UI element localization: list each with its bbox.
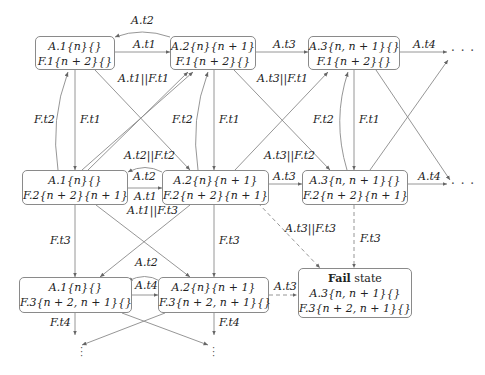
label-c2-ft1: F.t1 xyxy=(219,113,240,126)
label-top-a4: A.t4 xyxy=(413,38,436,51)
edge-diag-bot2 xyxy=(82,313,165,345)
label-cross-11: A.t1||F.t1 xyxy=(118,72,169,85)
state-line: F.3{n + 2, n + 1}{} xyxy=(299,301,411,316)
label-fail-diag: A.t3||F.t3 xyxy=(285,222,336,235)
state-a1-f2: A.1{n}{} F.2{n + 2}{n + 1} xyxy=(22,170,128,205)
label-c1-ft1: F.t1 xyxy=(80,113,101,126)
state-line: A.2{n}{n + 1} xyxy=(159,280,268,295)
state-line: F.2{n + 2}{n + 1} xyxy=(163,188,268,203)
edge-col3-ft2 xyxy=(340,72,348,170)
label-mid-a1: A.t1 xyxy=(134,190,157,203)
label-bot-ft4-right: F.t4 xyxy=(219,316,240,329)
state-line: F.3{n + 2, n + 1}{} xyxy=(159,295,268,310)
state-line: F.2{n + 2}{n + 1} xyxy=(23,188,127,203)
state-a1-f3: A.1{n}{} F.3{n + 2, n + 1}{} xyxy=(19,277,132,313)
state-line: A.3{n, n + 1}{} xyxy=(299,286,411,301)
label-bot-ft4-left: F.t4 xyxy=(50,316,71,329)
label-c3-ft1: F.t1 xyxy=(359,113,380,126)
label-mid-a4: A.t4 xyxy=(418,170,441,183)
state-line: A.3{n, n + 1}{} xyxy=(303,173,407,188)
state-line: A.1{n}{} xyxy=(36,39,114,54)
label-top-a3: A.t3 xyxy=(273,38,296,51)
label-mid-cross-32: A.t3||F.t2 xyxy=(264,149,315,162)
continuation-top: · · · xyxy=(451,44,475,58)
state-line: A.1{n}{} xyxy=(23,173,127,188)
state-line: F.2{n + 2}{n + 1} xyxy=(303,188,407,203)
state-line: F.1{n + 2}{} xyxy=(36,54,114,69)
state-line: F.1{n + 2}{} xyxy=(171,54,255,69)
continuation-bot-left: ··· xyxy=(80,346,84,358)
label-fail-vert: F.t3 xyxy=(360,232,381,245)
edge-diag-42 xyxy=(370,60,448,170)
state-a3-f2: A.3{n, n + 1}{} F.2{n + 2}{n + 1} xyxy=(302,170,408,205)
label-bot-back: A.t2 xyxy=(135,256,158,269)
continuation-mid: · · · xyxy=(451,177,475,191)
edge-col2-ft2 xyxy=(196,72,208,170)
label-mid-cross-22: A.t2||F.t2 xyxy=(124,149,175,162)
label-top-back: A.t2 xyxy=(131,14,154,27)
label-c2-ft2: F.t2 xyxy=(172,113,193,126)
label-c1-ft2: F.t2 xyxy=(34,113,55,126)
label-cross-31: A.t3||F.t1 xyxy=(257,72,308,85)
label-c3-ft2: F.t2 xyxy=(313,113,334,126)
edge-a-t2-top xyxy=(115,32,170,37)
label-bot-a3: A.t3 xyxy=(274,280,297,293)
edge-at3-ft3-fail xyxy=(258,203,320,268)
label-top-a1: A.t1 xyxy=(133,38,156,51)
state-a2-f2: A.2{n}{n + 1} F.2{n + 2}{n + 1} xyxy=(162,170,269,205)
state-a3-f1: A.3{n, n + 1}{} F.1{n + 2}{} xyxy=(308,36,400,70)
edge-diag-bot1 xyxy=(122,313,208,345)
state-line: F.1{n + 2}{} xyxy=(309,54,399,69)
continuation-bot-right: ··· xyxy=(212,346,216,358)
fail-state-title: Fail state xyxy=(299,271,411,286)
state-line: A.1{n}{} xyxy=(20,280,131,295)
label-mid-a3: A.t3 xyxy=(273,170,296,183)
state-line: A.2{n}{n + 1} xyxy=(163,173,268,188)
state-line: F.3{n + 2, n + 1}{} xyxy=(20,295,131,310)
label-c2-ft3: F.t3 xyxy=(219,234,240,247)
label-bot-a4: A.t4 xyxy=(135,279,158,292)
label-mid-cross-13: A.t1||F.t3 xyxy=(127,204,178,217)
state-a1-f1: A.1{n}{} F.1{n + 2}{} xyxy=(35,36,115,70)
label-mid-back: A.t2 xyxy=(133,170,156,183)
edge-diag-41 xyxy=(376,70,450,180)
label-c1-ft3: F.t3 xyxy=(50,234,71,247)
fail-state: Fail state A.3{n, n + 1}{} F.3{n + 2, n … xyxy=(298,268,412,318)
state-a2-f3: A.2{n}{n + 1} F.3{n + 2, n + 1}{} xyxy=(158,277,269,313)
state-line: A.2{n}{n + 1} xyxy=(171,39,255,54)
edge-col1-ft2 xyxy=(56,72,68,170)
state-a2-f1: A.2{n}{n + 1} F.1{n + 2}{} xyxy=(170,36,256,70)
state-line: A.3{n, n + 1}{} xyxy=(309,39,399,54)
